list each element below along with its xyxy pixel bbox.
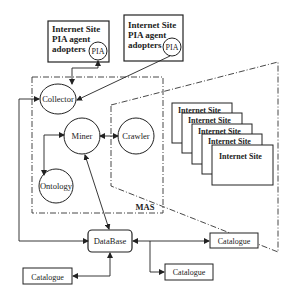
miner-node: Miner (64, 118, 100, 154)
database-catalogue-left-link (73, 253, 110, 276)
internet-site-pia-box-1: Internet Site PIA agent adopters PIA (48, 21, 109, 62)
catalogue-middle: Catalogue (165, 264, 213, 280)
svg-text:Catalogue: Catalogue (173, 268, 206, 277)
svg-text:Miner: Miner (72, 131, 93, 141)
svg-text:Crawler: Crawler (122, 131, 150, 141)
pia-agent-1-label: PIA (92, 47, 105, 56)
svg-text:Collector: Collector (42, 94, 74, 104)
catalogue-bottom-left: Catalogue (23, 268, 72, 284)
pia-box-1-line-1: Internet Site (52, 24, 100, 34)
pia1-collector-link (72, 61, 98, 84)
catalogue-right: Catalogue (210, 233, 258, 248)
database-node: DataBase (88, 230, 132, 252)
miner-database-link (85, 155, 109, 229)
pia-box-1-line-3: adopters (52, 44, 86, 54)
internet-site-card-5: Internet Site (212, 145, 273, 185)
svg-text:Catalogue: Catalogue (218, 237, 251, 246)
mas-label: MAS (136, 202, 155, 212)
internet-site-pia-box-2: Internet Site PIA agent adopters PIA (124, 15, 183, 61)
collector-node: Collector (40, 84, 76, 114)
svg-text:Ontology: Ontology (40, 181, 73, 191)
pia-box-2-line-3: adopters (128, 40, 162, 50)
internet-site-stack: Internet Site Internet Site Internet Sit… (172, 103, 273, 185)
architecture-diagram: Internet Site PIA agent adopters PIA Int… (0, 0, 295, 301)
pia-box-2-line-2: PIA agent (128, 30, 166, 40)
pia-box-1-line-2: PIA agent (52, 34, 90, 44)
svg-text:Internet Site: Internet Site (219, 152, 262, 161)
svg-text:Catalogue: Catalogue (31, 273, 64, 282)
pia-box-2-line-1: Internet Site (128, 20, 176, 30)
pia-agent-2-label: PIA (166, 43, 179, 52)
database-catalogue-middle-link (150, 241, 164, 272)
svg-text:DataBase: DataBase (94, 236, 127, 246)
crawler-node: Crawler (118, 118, 154, 154)
